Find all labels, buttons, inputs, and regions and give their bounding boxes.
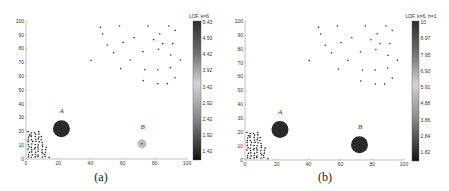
data-point xyxy=(35,151,37,153)
data-point xyxy=(246,142,248,144)
x-tick-label: 60 xyxy=(120,160,126,166)
data-point xyxy=(248,153,250,155)
data-point xyxy=(28,136,30,138)
x-tick-label: 60 xyxy=(338,161,344,167)
data-point xyxy=(397,60,399,62)
data-point xyxy=(340,42,342,44)
y-tick-label: 50 xyxy=(18,87,24,93)
x-tick-label: 0 xyxy=(25,160,28,166)
x-tick-label: 80 xyxy=(369,161,375,167)
data-point xyxy=(30,134,32,136)
data-point xyxy=(253,157,255,159)
point-label-b: B xyxy=(140,123,145,131)
data-point xyxy=(247,157,249,159)
data-point xyxy=(264,147,266,149)
data-point xyxy=(44,156,46,158)
data-point xyxy=(27,148,29,150)
data-point xyxy=(263,155,265,157)
y-tick-label: 80 xyxy=(18,45,24,51)
data-point xyxy=(260,150,262,152)
x-tick-label: 20 xyxy=(55,160,61,166)
colorbar-title: LOF, k=6 xyxy=(189,13,209,19)
data-point xyxy=(247,155,249,157)
x-tick-label: 0 xyxy=(244,161,247,167)
data-point xyxy=(42,144,44,146)
colorbar-tick-label: 3.42 xyxy=(203,84,213,90)
data-point xyxy=(37,156,39,158)
data-point xyxy=(247,147,249,149)
data-point xyxy=(157,69,159,71)
data-point xyxy=(172,43,174,45)
y-tick-label: 10 xyxy=(18,142,24,148)
data-point xyxy=(246,149,248,151)
y-tick-label: 50 xyxy=(237,87,243,93)
point-label-b: B xyxy=(358,123,363,131)
data-point xyxy=(40,139,42,141)
data-point xyxy=(267,158,269,160)
data-point xyxy=(320,33,322,35)
data-point xyxy=(100,27,102,29)
colorbar-tick-label: 3.86 xyxy=(421,117,431,123)
data-point xyxy=(38,141,40,143)
data-point xyxy=(38,131,40,133)
data-point xyxy=(391,30,393,32)
y-tick-label: 100 xyxy=(235,18,244,24)
y-tick-label: 30 xyxy=(237,115,243,121)
data-point xyxy=(27,139,29,141)
y-tick-label: 60 xyxy=(18,73,24,79)
data-point xyxy=(261,154,263,156)
data-point xyxy=(256,151,258,153)
data-point xyxy=(259,137,261,139)
data-point xyxy=(35,134,37,136)
x-tick-label: 40 xyxy=(306,161,312,167)
data-point xyxy=(387,67,389,69)
data-point xyxy=(46,146,48,148)
point-label-a: A xyxy=(58,107,64,115)
y-tick-label: 100 xyxy=(16,18,25,24)
data-point xyxy=(249,147,251,149)
data-point xyxy=(331,52,333,54)
colorbar-title: LDF, k=6, h=1 xyxy=(405,13,436,19)
x-tick-label: 40 xyxy=(88,160,94,166)
data-point xyxy=(28,144,30,146)
data-point xyxy=(31,132,33,134)
data-point xyxy=(389,43,391,45)
y-tick-label: 40 xyxy=(18,101,24,107)
data-point xyxy=(254,134,256,136)
data-point xyxy=(264,150,266,152)
data-point xyxy=(37,144,39,146)
panel-caption: (b) xyxy=(318,170,332,184)
y-tick-label: 10 xyxy=(237,143,243,149)
point-label-a: A xyxy=(277,108,283,116)
data-point xyxy=(376,33,378,35)
panel-caption: (a) xyxy=(94,170,107,184)
y-tick-label: 0 xyxy=(240,157,243,163)
data-point xyxy=(133,37,135,39)
data-point xyxy=(174,30,176,32)
colorbar xyxy=(412,21,419,161)
data-point xyxy=(37,146,39,148)
data-point xyxy=(31,154,33,156)
data-point xyxy=(308,60,310,62)
data-point xyxy=(158,48,160,50)
colorbar-tick-label: 6.93 xyxy=(421,68,431,74)
data-point xyxy=(374,69,376,71)
panel-a: 0204060801000102030405060708090100AB5.43… xyxy=(0,0,224,191)
data-point xyxy=(141,143,142,144)
data-point xyxy=(29,152,31,154)
data-point xyxy=(256,145,258,147)
data-point xyxy=(253,133,255,135)
data-point xyxy=(370,39,372,41)
data-point xyxy=(260,147,262,149)
data-point xyxy=(359,144,360,145)
y-tick-label: 80 xyxy=(237,46,243,52)
data-point xyxy=(174,77,176,79)
data-point xyxy=(142,51,144,53)
data-point xyxy=(31,139,33,141)
data-point xyxy=(257,137,259,139)
data-point xyxy=(37,150,39,152)
data-point xyxy=(37,148,39,150)
data-point xyxy=(147,25,149,27)
data-point xyxy=(34,132,36,134)
colorbar-tick-label: 1.82 xyxy=(421,149,431,155)
